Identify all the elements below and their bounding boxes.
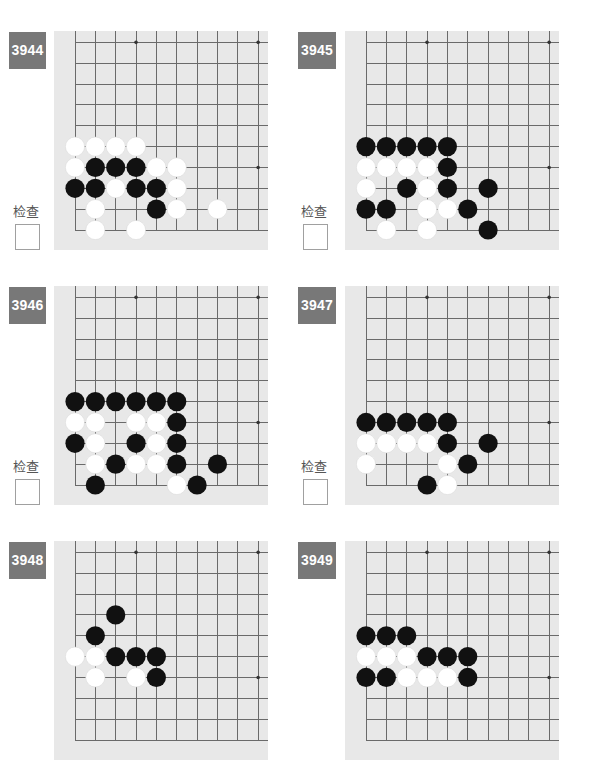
check-checkbox[interactable] <box>15 479 40 505</box>
problem-number-badge: 3945 <box>298 32 336 69</box>
problem-card-3947: 3947 检查 <box>290 255 580 510</box>
white-stone <box>65 158 84 177</box>
black-stone <box>397 413 416 432</box>
black-stone <box>458 200 477 219</box>
white-stone <box>438 475 457 494</box>
white-stone <box>377 158 396 177</box>
white-stone <box>147 158 166 177</box>
black-stone <box>147 200 166 219</box>
black-stone <box>106 455 125 474</box>
white-stone <box>147 413 166 432</box>
star-point <box>547 296 551 300</box>
go-board-diagram <box>54 541 268 760</box>
black-stone <box>377 668 396 687</box>
black-stone <box>188 475 207 494</box>
black-stone <box>438 179 457 198</box>
black-stone <box>417 137 436 156</box>
problem-number-badge: 3949 <box>298 542 336 579</box>
black-stone <box>126 179 145 198</box>
black-stone <box>377 626 396 645</box>
black-stone <box>458 668 477 687</box>
black-stone <box>86 179 105 198</box>
board-grid <box>75 541 268 740</box>
check-label: 检查 <box>13 459 39 475</box>
black-stone <box>126 647 145 666</box>
white-stone <box>86 668 105 687</box>
white-stone <box>417 220 436 239</box>
black-stone <box>356 626 375 645</box>
white-stone <box>356 647 375 666</box>
black-stone <box>86 475 105 494</box>
white-stone <box>397 434 416 453</box>
white-stone <box>438 455 457 474</box>
white-stone <box>106 137 125 156</box>
black-stone <box>147 647 166 666</box>
problem-card-3946: 3946 检查 <box>0 255 290 510</box>
white-stone <box>397 158 416 177</box>
white-stone <box>86 434 105 453</box>
white-stone <box>438 200 457 219</box>
star-point <box>256 41 260 45</box>
go-board-diagram <box>345 286 559 505</box>
black-stone <box>479 220 498 239</box>
board-grid <box>366 286 559 485</box>
white-stone <box>147 434 166 453</box>
star-point <box>547 676 551 680</box>
black-stone <box>208 455 227 474</box>
star-point <box>256 166 260 170</box>
star-point <box>256 551 260 555</box>
white-stone <box>167 475 186 494</box>
black-stone <box>417 647 436 666</box>
star-point <box>256 421 260 425</box>
black-stone <box>167 455 186 474</box>
black-stone <box>86 392 105 411</box>
black-stone <box>356 200 375 219</box>
white-stone <box>86 220 105 239</box>
black-stone <box>126 392 145 411</box>
black-stone <box>167 392 186 411</box>
white-stone <box>356 455 375 474</box>
star-point <box>547 41 551 45</box>
star-point <box>425 551 429 555</box>
black-stone <box>126 158 145 177</box>
black-stone <box>356 137 375 156</box>
star-point <box>134 41 138 45</box>
black-stone <box>147 179 166 198</box>
black-stone <box>86 158 105 177</box>
white-stone <box>356 158 375 177</box>
problem-card-3949: 3949 <box>290 510 580 764</box>
problem-number-badge: 3947 <box>298 287 336 324</box>
go-board <box>345 31 559 250</box>
black-stone <box>106 392 125 411</box>
black-stone <box>356 668 375 687</box>
problem-card-3948: 3948 <box>0 510 290 764</box>
black-stone <box>65 392 84 411</box>
check-label: 检查 <box>301 459 327 475</box>
check-checkbox[interactable] <box>303 479 328 505</box>
white-stone <box>208 200 227 219</box>
white-stone <box>167 158 186 177</box>
black-stone <box>438 647 457 666</box>
check-checkbox[interactable] <box>15 224 40 250</box>
check-checkbox[interactable] <box>303 224 328 250</box>
board-grid <box>75 286 268 485</box>
black-stone <box>397 137 416 156</box>
star-point <box>256 296 260 300</box>
go-board <box>54 541 268 760</box>
star-point <box>134 551 138 555</box>
white-stone <box>377 434 396 453</box>
go-board-diagram <box>345 541 559 760</box>
white-stone <box>377 647 396 666</box>
white-stone <box>65 413 84 432</box>
go-board-diagram <box>54 31 268 250</box>
black-stone <box>479 434 498 453</box>
white-stone <box>126 220 145 239</box>
white-stone <box>397 668 416 687</box>
star-point <box>547 166 551 170</box>
black-stone <box>458 455 477 474</box>
go-board-diagram <box>54 286 268 505</box>
black-stone <box>397 179 416 198</box>
white-stone <box>86 413 105 432</box>
black-stone <box>417 413 436 432</box>
white-stone <box>86 200 105 219</box>
